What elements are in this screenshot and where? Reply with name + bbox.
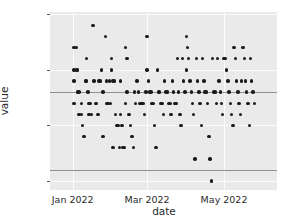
vertical-gridline	[224, 12, 225, 190]
data-point	[232, 46, 235, 49]
data-point	[143, 113, 146, 116]
data-point	[176, 57, 179, 60]
data-point	[230, 113, 233, 116]
data-point	[130, 135, 133, 138]
data-point	[231, 124, 234, 127]
data-point	[104, 35, 107, 38]
data-point	[240, 79, 243, 82]
data-point	[250, 79, 253, 82]
data-point	[90, 113, 93, 116]
data-point	[75, 46, 78, 49]
data-point	[124, 102, 127, 105]
data-point	[245, 90, 248, 93]
data-point	[82, 135, 85, 138]
data-point	[119, 113, 122, 116]
horizontal-gridline	[50, 70, 277, 71]
data-point	[195, 57, 198, 60]
vertical-gridline	[147, 12, 148, 190]
y-tick-mark	[47, 125, 50, 126]
data-point	[236, 90, 239, 93]
data-point	[114, 113, 117, 116]
data-point	[76, 68, 79, 71]
data-point	[132, 146, 135, 149]
data-point	[129, 124, 132, 127]
data-point	[208, 157, 211, 160]
data-point	[145, 35, 148, 38]
data-point	[206, 102, 209, 105]
data-point	[186, 46, 189, 49]
data-point	[241, 46, 244, 49]
data-point	[85, 57, 88, 60]
data-point	[95, 102, 98, 105]
x-tick-label: May 2022	[201, 194, 248, 205]
data-point	[248, 124, 251, 127]
data-point	[85, 79, 88, 82]
data-point	[193, 157, 196, 160]
data-point	[77, 90, 80, 93]
data-point	[154, 146, 157, 149]
data-point	[219, 90, 222, 93]
horizontal-gridline	[50, 181, 277, 182]
data-point	[152, 102, 155, 105]
data-point	[190, 90, 193, 93]
data-point	[249, 57, 252, 60]
data-point	[125, 90, 128, 93]
horizontal-gridline	[50, 125, 277, 126]
data-point	[196, 79, 199, 82]
data-point	[197, 90, 200, 93]
data-point	[217, 79, 220, 82]
data-point	[100, 68, 103, 71]
y-tick-mark	[47, 181, 50, 182]
data-point	[234, 57, 237, 60]
data-point	[185, 68, 188, 71]
data-point	[235, 79, 238, 82]
data-point	[113, 79, 116, 82]
data-point	[211, 57, 214, 60]
data-point	[215, 102, 218, 105]
x-tick-label: Jan 2022	[52, 194, 94, 205]
data-point	[201, 57, 204, 60]
data-point	[237, 102, 240, 105]
data-point	[225, 68, 228, 71]
data-point	[80, 102, 83, 105]
data-point	[161, 102, 164, 105]
data-point	[92, 79, 95, 82]
data-point	[179, 124, 182, 127]
data-point	[124, 46, 127, 49]
data-point	[89, 102, 92, 105]
data-point	[128, 113, 131, 116]
scatter-plot-figure: 2221.52120.5 Jan 2022Mar 2022May 2022 va…	[0, 0, 282, 222]
y-tick-mark	[47, 14, 50, 15]
data-point	[243, 57, 246, 60]
data-point	[200, 124, 203, 127]
data-point	[246, 102, 249, 105]
data-point	[142, 102, 145, 105]
data-point	[110, 68, 113, 71]
data-point	[229, 102, 232, 105]
data-point	[172, 90, 175, 93]
data-point	[216, 57, 219, 60]
horizontal-gridline	[50, 14, 277, 15]
y-tick-mark	[47, 70, 50, 71]
data-point	[169, 113, 172, 116]
data-point	[133, 90, 136, 93]
data-point	[187, 57, 190, 60]
data-point	[99, 79, 102, 82]
data-point	[191, 102, 194, 105]
data-point	[134, 102, 137, 105]
data-point	[147, 79, 150, 82]
data-point	[202, 79, 205, 82]
data-point	[86, 90, 89, 93]
data-point	[72, 102, 75, 105]
x-axis-label: date	[152, 205, 176, 217]
data-point	[145, 68, 148, 71]
data-point	[80, 113, 83, 116]
data-point	[183, 90, 186, 93]
data-point	[153, 124, 156, 127]
data-point	[214, 90, 217, 93]
data-point	[174, 102, 177, 105]
data-point	[182, 79, 185, 82]
data-point	[177, 90, 180, 93]
data-point	[101, 135, 104, 138]
data-point	[111, 146, 114, 149]
